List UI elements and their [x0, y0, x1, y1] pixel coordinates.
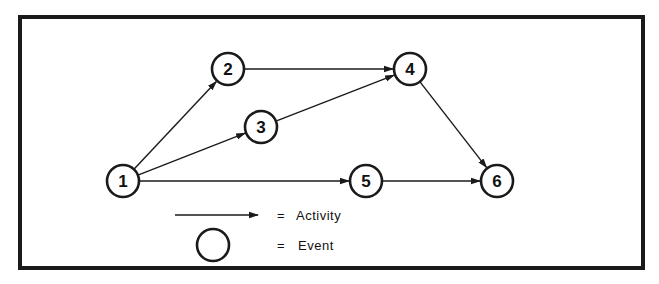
event-node-6: 6 [481, 165, 513, 197]
event-node-label: 5 [361, 172, 370, 191]
activity-arrow-4-6 [420, 82, 487, 168]
network-diagram: 123456 = Activity = Event [0, 0, 659, 284]
legend-event-equals: = [277, 238, 285, 253]
event-node-5: 5 [350, 165, 382, 197]
legend-event-circle-icon [197, 229, 229, 261]
event-node-label: 6 [492, 172, 501, 191]
event-node-label: 4 [405, 60, 415, 79]
legend-activity-equals: = [277, 208, 285, 223]
event-node-4: 4 [394, 53, 426, 85]
legend-activity-label: Activity [296, 208, 341, 223]
event-node-label: 3 [256, 118, 265, 137]
event-node-1: 1 [107, 165, 139, 197]
activity-arrow-1-3 [138, 133, 245, 175]
legend-event-label: Event [298, 238, 334, 253]
activity-arrows [134, 69, 487, 181]
legend: = Activity = Event [175, 208, 341, 261]
event-node-label: 1 [118, 172, 127, 191]
activity-arrow-1-2 [134, 81, 216, 169]
event-node-label: 2 [223, 60, 232, 79]
event-node-3: 3 [245, 111, 277, 143]
activity-arrow-3-4 [276, 75, 394, 121]
event-nodes: 123456 [107, 53, 513, 197]
event-node-2: 2 [212, 53, 244, 85]
